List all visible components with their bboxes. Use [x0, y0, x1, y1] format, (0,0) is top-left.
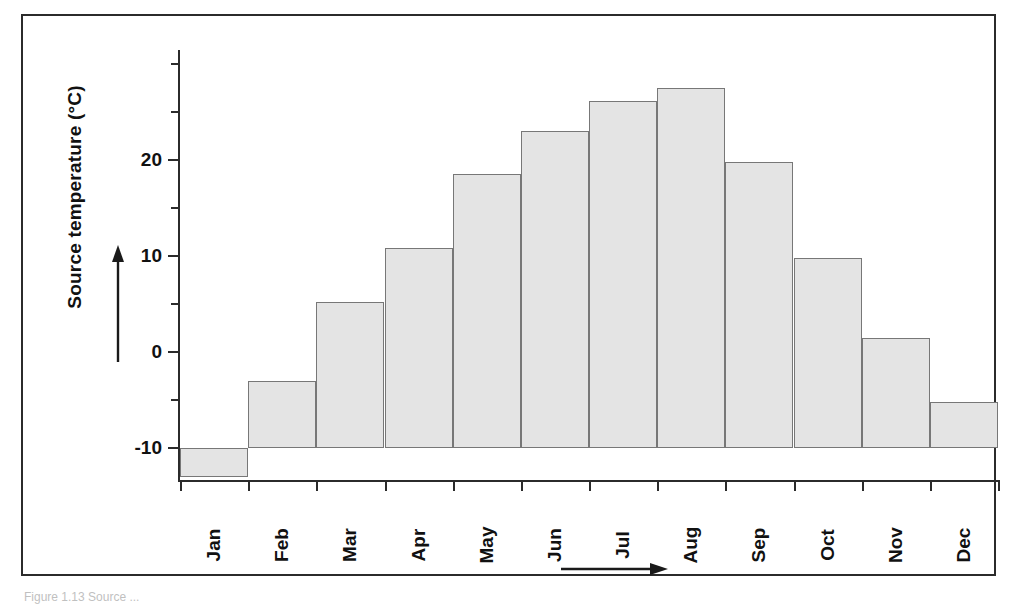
x-axis-tick — [316, 480, 318, 491]
bar-mar — [316, 302, 384, 449]
bar-apr — [385, 248, 453, 449]
y-axis-tick — [168, 351, 179, 353]
x-axis-tick-label-sep: Sep — [748, 508, 770, 582]
y-axis-tick-label: 0 — [100, 341, 162, 363]
x-axis-tick — [248, 480, 250, 491]
bar-sep — [725, 162, 793, 448]
bar-jul — [589, 101, 657, 449]
x-axis-tick — [862, 480, 864, 491]
y-axis-tick-label: -10 — [100, 437, 162, 459]
x-axis-tick-label-nov: Nov — [885, 508, 907, 582]
x-axis-tick — [521, 480, 523, 491]
y-axis-minor-tick — [171, 111, 179, 113]
y-axis-minor-tick — [171, 63, 179, 65]
bar-jan — [180, 448, 248, 477]
x-axis-tick-label-apr: Apr — [408, 508, 430, 582]
y-axis-minor-tick — [171, 399, 179, 401]
x-axis-tick — [657, 480, 659, 491]
x-axis-tick-label-may: May — [476, 508, 498, 582]
bar-nov — [862, 338, 930, 448]
y-axis-tick — [168, 255, 179, 257]
x-axis-tick — [794, 480, 796, 491]
x-axis-tick — [589, 480, 591, 491]
bar-dec — [930, 402, 998, 448]
bar-series — [180, 50, 998, 482]
x-axis-tick-label-aug: Aug — [680, 508, 702, 582]
x-axis-tick-label-oct: Oct — [817, 508, 839, 582]
bar-jun — [521, 131, 589, 449]
x-axis-tick — [453, 480, 455, 491]
x-axis-tick — [725, 480, 727, 491]
y-axis-tick-label: 20 — [100, 149, 162, 171]
x-axis-tick — [930, 480, 932, 491]
x-axis-tick-label-dec: Dec — [953, 508, 975, 582]
figure-frame: Source temperature (°C) 20100-10 JanFebM… — [21, 14, 996, 576]
bar-aug — [657, 88, 725, 448]
figure-caption: Figure 1.13 Source ... — [24, 590, 139, 606]
y-axis-tick — [168, 447, 179, 449]
y-axis-minor-tick — [171, 303, 179, 305]
y-axis-tick-label: 10 — [100, 245, 162, 267]
x-axis-tick-label-feb: Feb — [271, 508, 293, 582]
x-axis-tick-label-jan: Jan — [203, 508, 225, 582]
y-axis-tick — [168, 159, 179, 161]
right-arrow-icon — [561, 561, 669, 577]
y-axis-minor-tick — [171, 207, 179, 209]
bar-may — [453, 174, 521, 449]
y-axis-title: Source temperature (°C) — [64, 47, 86, 347]
bar-feb — [248, 381, 316, 448]
bar-oct — [794, 258, 862, 448]
x-axis-tick — [998, 480, 1000, 491]
x-axis-tick-label-mar: Mar — [339, 508, 361, 582]
x-axis-tick — [385, 480, 387, 491]
plot-area — [178, 50, 998, 482]
x-axis-tick — [180, 480, 182, 491]
